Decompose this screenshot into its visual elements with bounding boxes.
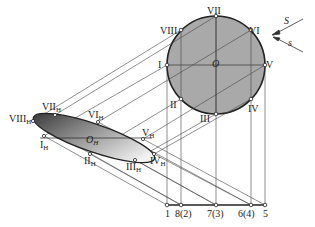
label-IV-H: IVH [150, 155, 166, 168]
baseline [165, 203, 267, 207]
label-S: S [284, 15, 289, 26]
label-II-H: IIH [84, 155, 96, 168]
label-VIII: VIII [160, 25, 177, 36]
label-III: III [200, 113, 210, 124]
label-VII-H: VIIH [42, 101, 61, 114]
baseline-label-7-3: 7(3) [207, 208, 224, 220]
baseline-labels: 1 8(2) 7(3) 6(4) 5 [165, 208, 268, 220]
projection-diagram: I II III IV V VI VII VIII O IH IIH IIIH … [0, 0, 315, 227]
label-VII: VII [207, 5, 221, 16]
baseline-label-8-2: 8(2) [175, 208, 192, 220]
label-O: O [212, 58, 219, 69]
label-VIII-H: VIIIH [9, 113, 31, 126]
baseline-label-5: 5 [263, 208, 268, 219]
label-VI: VI [249, 25, 260, 36]
label-I: I [158, 59, 161, 70]
label-I-H: IH [40, 139, 48, 152]
label-IV: IV [248, 103, 259, 114]
label-II: II [170, 99, 177, 110]
label-s: s [288, 37, 292, 48]
label-V: V [266, 59, 274, 70]
label-VI-H: VIH [88, 109, 104, 122]
baseline-label-6-4: 6(4) [238, 208, 255, 220]
baseline-label-1: 1 [165, 208, 170, 219]
